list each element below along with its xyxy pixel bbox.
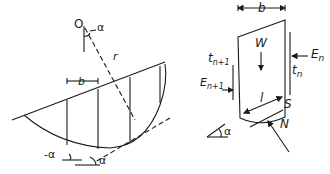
left-panel — [12, 26, 170, 165]
center-label: O — [74, 17, 83, 31]
base-angle-label: α — [99, 154, 106, 167]
angle-arc — [219, 129, 221, 137]
radius-label: r — [113, 50, 119, 63]
right-panel — [207, 5, 308, 152]
slice-width-label-right: b — [258, 1, 266, 15]
base-angle-arc — [90, 157, 96, 165]
shear-right-label: tn — [292, 63, 303, 79]
normal-right-label: En — [311, 47, 325, 63]
normal-base-label: N — [280, 117, 289, 131]
negative-angle-arc — [69, 154, 71, 160]
shear-base-line — [250, 110, 283, 127]
base-length-label: l — [260, 91, 264, 105]
slice-width-label: b — [78, 75, 85, 88]
diagram-svg: O α r b -α α b W En — [0, 0, 330, 174]
right-labels: b W En tn tn+1 En+1 l S N α — [200, 1, 325, 138]
slope-stability-diagram: O α r b -α α b W En — [0, 0, 330, 174]
angle-incline — [207, 124, 225, 137]
angle-leader — [90, 30, 96, 31]
ground-surface-line — [12, 62, 165, 120]
angle-label-top: α — [97, 21, 104, 34]
slip-circle-arc — [24, 64, 166, 148]
normal-left-label: En+1 — [200, 76, 224, 91]
negative-angle-label: -α — [44, 148, 55, 161]
radius-dashed-line — [85, 28, 135, 120]
weight-label: W — [255, 36, 268, 50]
angle-label-right: α — [224, 125, 231, 138]
shear-base-label: S — [284, 97, 292, 111]
shear-left-label: tn+1 — [208, 51, 230, 67]
